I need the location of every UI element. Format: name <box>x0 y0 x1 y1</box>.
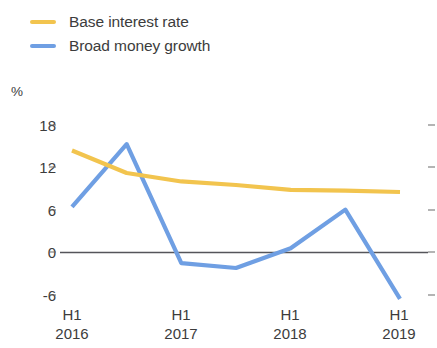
x-axis-label-2017-line2: 2017 <box>141 324 221 343</box>
x-axis-label-2019: H1 2019 <box>359 305 437 343</box>
x-axis-label-2019-line1: H1 <box>389 306 408 323</box>
x-axis-label-2018: H1 2018 <box>250 305 330 343</box>
line-broad-money-growth <box>72 144 400 299</box>
x-axis-label-2018-line2: 2018 <box>250 324 330 343</box>
plot-area <box>0 0 437 348</box>
x-axis-label-2018-line1: H1 <box>280 306 299 323</box>
x-axis-label-2016-line2: 2016 <box>32 324 112 343</box>
x-axis-label-2019-line2: 2019 <box>359 324 437 343</box>
x-axis-label-2016: H1 2016 <box>32 305 112 343</box>
x-axis-label-2017: H1 2017 <box>141 305 221 343</box>
x-axis-label-2017-line1: H1 <box>171 306 190 323</box>
x-axis-label-2016-line1: H1 <box>62 306 81 323</box>
chart-container: Base interest rate Broad money growth % … <box>0 0 437 348</box>
line-base-interest-rate <box>72 151 400 192</box>
